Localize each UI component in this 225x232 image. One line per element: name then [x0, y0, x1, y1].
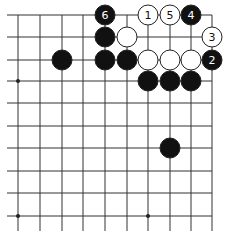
- white-stone: [181, 50, 201, 70]
- move-number: 3: [209, 31, 216, 44]
- black-stone: [160, 71, 180, 91]
- move-number: 4: [188, 9, 195, 22]
- black-stone: [138, 71, 158, 91]
- black-stone: [52, 50, 72, 70]
- white-stone: [117, 27, 137, 47]
- star-point: [146, 214, 150, 218]
- black-stone: [95, 50, 115, 70]
- black-stone: 2: [202, 50, 222, 70]
- move-number: 1: [145, 9, 152, 22]
- white-stone: 5: [160, 5, 180, 25]
- move-number: 6: [102, 9, 109, 22]
- star-point: [16, 214, 20, 218]
- black-stone: 4: [181, 5, 201, 25]
- black-stone: [181, 71, 201, 91]
- black-stone: [160, 138, 180, 158]
- black-stone: [117, 50, 137, 70]
- board-grid: [7, 15, 212, 231]
- white-stone: 3: [202, 27, 222, 47]
- white-stone: 1: [138, 5, 158, 25]
- move-number: 2: [209, 54, 216, 67]
- black-stone: [95, 27, 115, 47]
- move-number: 5: [167, 9, 174, 22]
- white-stone: [160, 50, 180, 70]
- black-stone: 6: [95, 5, 115, 25]
- go-board: 615432: [0, 0, 225, 232]
- white-stone: [138, 50, 158, 70]
- star-point: [16, 79, 20, 83]
